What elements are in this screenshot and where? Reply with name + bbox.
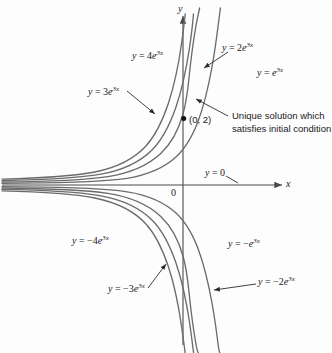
- leader-c3-positive: [127, 91, 155, 114]
- initial-condition-point: [181, 116, 186, 121]
- label-exp: 3x: [138, 282, 145, 290]
- label-coef: −3: [123, 283, 134, 294]
- leader-y-equals-zero: [226, 176, 238, 183]
- curve-c3-negative: [2, 189, 194, 353]
- label-coef: −2: [273, 276, 284, 287]
- x-axis-label: x: [286, 178, 290, 189]
- leader-c3-negative: [148, 264, 166, 288]
- leader-lines: [127, 52, 256, 290]
- curve-c1-negative: [2, 187, 220, 353]
- curve-group-negative: [2, 187, 220, 353]
- label-y-equals-neg-2e3x: y = −2e3x: [258, 276, 295, 287]
- label-exp: 3x: [102, 234, 109, 242]
- label-eq: =: [76, 235, 87, 246]
- label-exp: 3x: [288, 275, 295, 283]
- label-y-equals-neg-4e3x: y = −4e3x: [72, 235, 109, 246]
- annotation-line-2: satisfies initial condition: [232, 123, 331, 136]
- plot-canvas: [0, 0, 332, 353]
- label-eq: =: [112, 283, 123, 294]
- label-y-equals-4e3x: y = 4e3x: [132, 50, 163, 61]
- leader-c2-negative: [214, 284, 256, 290]
- label-eq: =: [262, 276, 273, 287]
- label-exp: 3x: [277, 66, 284, 74]
- label-eq: =: [136, 50, 147, 61]
- exponential-solution-family-figure: y = 4e3x y = 3e3x y = 2e3x y = e3x y = 0…: [0, 0, 332, 353]
- label-eq: =: [92, 86, 103, 97]
- label-coef: −4: [87, 235, 98, 246]
- label-exp: 3x: [253, 237, 260, 245]
- label-coef: 0: [220, 167, 225, 178]
- label-eq: =: [261, 67, 272, 78]
- label-eq: =: [209, 167, 220, 178]
- label-eq: =: [232, 238, 243, 249]
- initial-condition-point-label: (0, 2): [189, 114, 211, 125]
- label-y-equals-2e3x: y = 2e3x: [222, 42, 253, 53]
- label-exp: 3x: [157, 49, 164, 57]
- label-y-equals-e3x: y = e3x: [257, 67, 283, 78]
- annotation-line-1: Unique solution which: [232, 110, 331, 123]
- leader-c2-positive: [204, 52, 228, 68]
- curve-c4-negative: [2, 191, 185, 353]
- label-y-equals-3e3x: y = 3e3x: [88, 86, 119, 97]
- label-y-equals-neg-3e3x: y = −3e3x: [108, 283, 145, 294]
- label-exp: 3x: [113, 85, 120, 93]
- y-axis-label: y: [178, 3, 182, 14]
- unique-solution-annotation: Unique solution which satisfies initial …: [232, 110, 331, 136]
- label-eq: =: [226, 42, 237, 53]
- origin-label: 0: [171, 187, 176, 198]
- label-y-equals-zero: y = 0: [205, 167, 225, 178]
- label-y-equals-neg-e3x: y = −e3x: [228, 238, 260, 249]
- label-exp: 3x: [247, 41, 254, 49]
- curve-c2-negative: [2, 188, 198, 353]
